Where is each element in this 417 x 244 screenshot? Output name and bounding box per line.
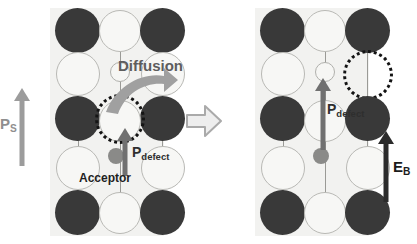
eb-arrow-shaft bbox=[384, 141, 389, 202]
pdefect-label-right: Pdefect bbox=[327, 102, 364, 116]
right-panel: Pdefect EB bbox=[227, 0, 397, 244]
pdefect-label-left: Pdefect bbox=[132, 145, 169, 159]
a-site-atom-light bbox=[99, 10, 141, 52]
pdefect-arrow-left bbox=[117, 128, 133, 176]
a-site-atom-dark bbox=[55, 8, 100, 53]
a-site-atom-light bbox=[261, 146, 305, 190]
figure-canvas: PS Pdefect Acceptor Diffusion bbox=[0, 0, 417, 244]
a-site-atom-dark bbox=[55, 96, 100, 141]
a-site-atom-dark bbox=[140, 190, 185, 235]
diffusion-arrow bbox=[100, 56, 180, 118]
ps-arrow-shaft bbox=[20, 98, 25, 166]
acceptor-dopant bbox=[313, 148, 329, 164]
left-panel: PS Pdefect Acceptor Diffusion bbox=[22, 0, 192, 244]
a-site-atom-light bbox=[56, 52, 100, 96]
a-site-atom-dark bbox=[260, 96, 305, 141]
a-site-atom-light bbox=[261, 52, 305, 96]
a-site-atom-dark bbox=[260, 8, 305, 53]
oxygen-vacancy-circle bbox=[343, 50, 393, 100]
a-site-atom-light bbox=[304, 192, 346, 234]
a-site-atom-dark bbox=[260, 190, 305, 235]
eb-label: EB bbox=[393, 159, 410, 174]
transition-arrow bbox=[186, 104, 222, 138]
a-site-atom-dark bbox=[345, 8, 390, 53]
eb-arrow bbox=[378, 131, 394, 202]
a-site-atom-dark bbox=[55, 190, 100, 235]
a-site-atom-light bbox=[99, 192, 141, 234]
acceptor-label: Acceptor bbox=[79, 172, 131, 184]
pdefect-arrow-shaft bbox=[321, 88, 326, 150]
a-site-atom-light bbox=[304, 10, 346, 52]
a-site-atom-dark bbox=[140, 8, 185, 53]
ps-label: PS bbox=[0, 116, 17, 131]
